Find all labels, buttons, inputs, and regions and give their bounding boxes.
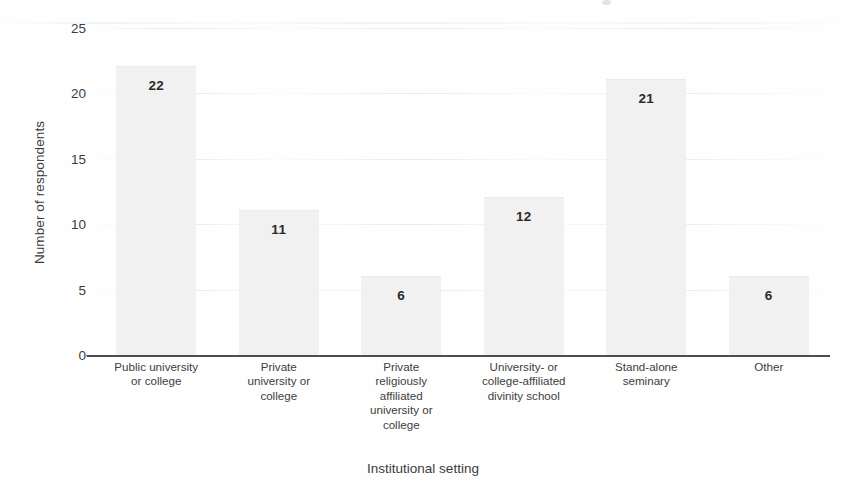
x-tick-label-line: university or: [218, 374, 341, 388]
bar-value-label: 6: [361, 288, 441, 303]
x-tick-label-line: college-affiliated: [463, 374, 586, 388]
y-tick-label: 25: [71, 21, 86, 36]
x-tick-label: Other: [708, 360, 831, 374]
y-tick-label: 10: [71, 217, 86, 232]
x-tick-label-line: college: [218, 389, 341, 403]
x-tick-label-line: seminary: [585, 374, 708, 388]
x-tick-label-line: Stand-alone: [585, 360, 708, 374]
chart-page: Number of respondents 0510152025 2211612…: [0, 0, 846, 495]
x-tick-label-line: college: [340, 418, 463, 432]
x-tick-label-line: Public university: [95, 360, 218, 374]
x-tick-label-line: university or: [340, 403, 463, 417]
x-tick-label: Privateuniversity orcollege: [218, 360, 341, 403]
x-tick-label-line: divinity school: [463, 389, 586, 403]
x-tick-label-line: affiliated: [340, 389, 463, 403]
x-tick-label-line: Other: [708, 360, 831, 374]
bar: [116, 66, 196, 355]
x-tick-label: University- orcollege-affiliateddivinity…: [463, 360, 586, 403]
x-axis-line: [87, 355, 830, 357]
bar-group: 6: [361, 28, 441, 355]
bar-value-label: 6: [729, 288, 809, 303]
bar-series: 2211612216: [95, 28, 830, 355]
bar-value-label: 21: [606, 91, 686, 106]
bar-group: 22: [116, 28, 196, 355]
x-tick-label-line: Private: [218, 360, 341, 374]
bar-value-label: 11: [239, 222, 319, 237]
x-tick-label-line: Private: [340, 360, 463, 374]
plot-area: 0510152025 2211612216: [95, 28, 830, 355]
bar-group: 11: [239, 28, 319, 355]
y-axis-title: Number of respondents: [32, 78, 47, 308]
scan-artifact-speck: [602, 0, 611, 5]
x-tick-label-line: University- or: [463, 360, 586, 374]
x-tick-label: Privatereligiouslyaffiliateduniversity o…: [340, 360, 463, 432]
y-tick-label: 15: [71, 151, 86, 166]
x-tick-label: Public universityor college: [95, 360, 218, 389]
x-axis-title: Institutional setting: [0, 461, 846, 476]
scan-artifact-band: [0, 22, 846, 24]
y-tick-label: 0: [78, 348, 86, 363]
x-tick-label-line: or college: [95, 374, 218, 388]
bar-value-label: 22: [116, 78, 196, 93]
y-tick-label: 20: [71, 86, 86, 101]
bar-value-label: 12: [484, 209, 564, 224]
bar-group: 6: [729, 28, 809, 355]
bar: [606, 79, 686, 355]
x-tick-label-line: religiously: [340, 374, 463, 388]
bar-group: 12: [484, 28, 564, 355]
bar-group: 21: [606, 28, 686, 355]
x-tick-label: Stand-aloneseminary: [585, 360, 708, 389]
y-tick-label: 5: [78, 282, 86, 297]
